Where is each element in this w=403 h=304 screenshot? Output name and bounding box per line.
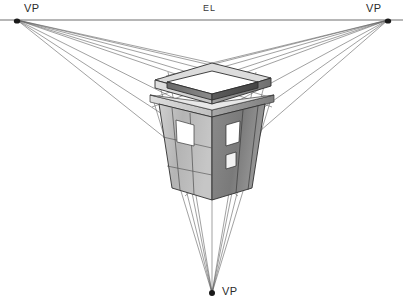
- eye-level-label: EL: [203, 3, 216, 13]
- left-face-windows: [176, 120, 194, 146]
- vp-right-label: VP: [366, 2, 382, 14]
- vp-right-dot[interactable]: [385, 18, 391, 23]
- window: [176, 120, 194, 146]
- three-point-perspective-illustration: [0, 0, 403, 304]
- tower-body: [159, 104, 265, 200]
- window: [226, 152, 236, 169]
- tower-right-face: [212, 104, 265, 200]
- vp-bottom-label: VP: [222, 285, 238, 297]
- vp-left-label: VP: [24, 2, 40, 14]
- window: [226, 121, 240, 146]
- vp-left-dot[interactable]: [14, 18, 20, 23]
- tower-left-face: [159, 104, 212, 200]
- vp-bottom-dot[interactable]: [209, 290, 215, 296]
- perspective-drawing-canvas: VP VP VP EL: [0, 0, 403, 304]
